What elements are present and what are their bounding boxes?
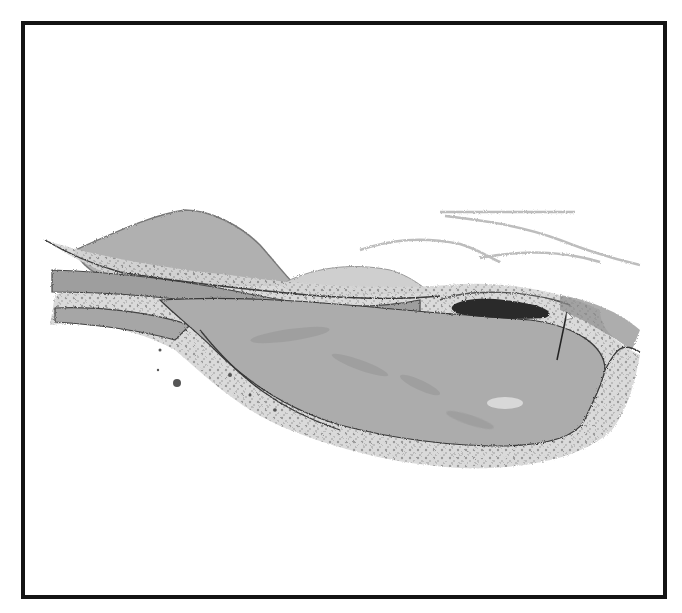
distant-hills	[360, 212, 640, 265]
golf-green-illustration	[0, 0, 682, 613]
green-highlight	[487, 397, 523, 409]
